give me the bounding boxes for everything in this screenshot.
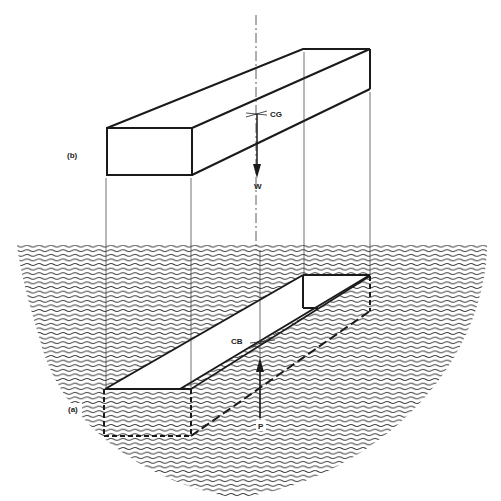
water-region — [0, 244, 501, 501]
cb-label: CB — [231, 337, 243, 346]
top-view-label: (b) — [67, 151, 78, 160]
weight-label: W — [254, 182, 262, 191]
cg-label: CG — [270, 110, 282, 119]
buoyant-force-label: P — [258, 422, 264, 431]
bottom-view-label: (a) — [68, 405, 78, 414]
lifted-block — [107, 49, 370, 175]
diagram-canvas: CG W (b) CB P (a) — [0, 0, 501, 501]
